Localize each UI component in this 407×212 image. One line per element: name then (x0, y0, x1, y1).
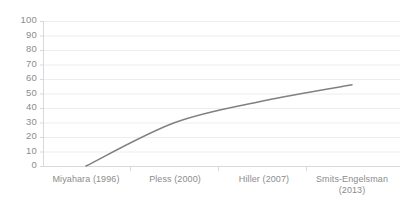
y-axis-tick-label: 100 (21, 15, 37, 25)
x-axis-category-label: Hiller (2007) (219, 174, 308, 185)
y-axis-tick-label: 10 (26, 146, 37, 156)
series-line (86, 85, 352, 166)
y-axis-tick-label: 80 (26, 44, 37, 54)
y-axis-tick-label: 50 (26, 88, 37, 98)
x-axis-category-label: Pless (2000) (130, 174, 219, 185)
y-axis-tick-label: 60 (26, 73, 37, 83)
y-axis-tick-label: 0 (32, 160, 37, 170)
y-axis-tick-label: 20 (26, 131, 37, 141)
gridlines (43, 22, 400, 167)
y-axis-tick-label: 40 (26, 102, 37, 112)
y-axis-tick-label: 30 (26, 117, 37, 127)
x-axis-category-label: Smits-Engelsman (2013) (307, 174, 396, 196)
line-chart: 1009080706050403020100 Miyahara (1996)Pl… (0, 0, 407, 212)
y-axis-tick-label: 70 (26, 59, 37, 69)
data-series (86, 85, 352, 166)
x-axis-category-label: Miyahara (1996) (41, 174, 130, 185)
y-axis-tick-label: 90 (26, 30, 37, 40)
